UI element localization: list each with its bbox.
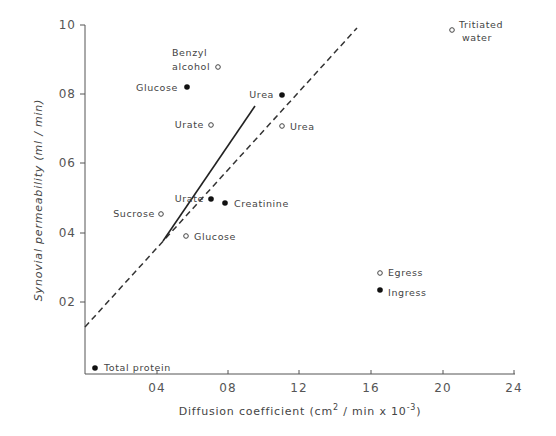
- label-tritiated-water-2: water: [462, 32, 492, 43]
- point-urea-ingress: [279, 92, 285, 98]
- label-sucrose: Sucrose: [113, 208, 155, 219]
- point-sucrose-egress: [159, 212, 164, 217]
- legend-ingress-label: Ingress: [388, 287, 427, 298]
- legend-egress-marker: [378, 271, 383, 276]
- label-total-protein: Total protein: [103, 362, 171, 373]
- y-tick-label: 10: [59, 18, 76, 32]
- point-urea-egress: [280, 124, 285, 129]
- x-tick-labels: 04 08 12 16 20 24: [148, 381, 522, 395]
- label-urea-egress: Urea: [290, 121, 315, 132]
- point-creatinine-ingress: [222, 200, 228, 206]
- y-tick-label: 04: [59, 226, 76, 240]
- x-tick-label: 04: [148, 381, 165, 395]
- point-labels: Tritiated water Benzyl alcohol Glucose U…: [103, 19, 503, 373]
- point-glucose-egress: [184, 234, 189, 239]
- x-axis-title: Diffusion coefficient (cm2 / min x 10-3): [179, 403, 422, 418]
- y-tick-label: 02: [59, 295, 76, 309]
- label-creatinine: Creatinine: [234, 198, 289, 209]
- legend-ingress-marker: [377, 287, 383, 293]
- label-urate-ingress: Urate: [175, 193, 204, 204]
- label-glucose-egress: Glucose: [194, 231, 236, 242]
- point-total-protein: [92, 365, 98, 371]
- y-tick-label: 06: [59, 156, 76, 170]
- point-glucose-ingress: [184, 84, 190, 90]
- y-ticks: [80, 25, 85, 302]
- point-urate-ingress: [208, 196, 214, 202]
- x-ticks: [157, 370, 514, 374]
- x-tick-label: 08: [219, 381, 236, 395]
- x-tick-label: 12: [290, 381, 307, 395]
- x-tick-label: 16: [362, 381, 379, 395]
- y-axis-title: Synovial permeability (ml / min): [32, 99, 45, 301]
- ingress-points: [92, 84, 383, 371]
- label-benzyl-alcohol-2: alcohol: [172, 61, 210, 72]
- label-benzyl-alcohol: Benzyl: [172, 47, 207, 58]
- point-urate-egress: [209, 123, 214, 128]
- y-tick-labels: 10 08 06 04 02: [59, 18, 76, 309]
- legend-egress-label: Egress: [388, 267, 423, 278]
- label-glucose-ingress: Glucose: [136, 82, 178, 93]
- label-urea-ingress: Urea: [249, 89, 274, 100]
- point-tritiated-water: [450, 28, 455, 33]
- y-tick-label: 08: [59, 87, 76, 101]
- regression-line-dashed: [85, 28, 357, 327]
- x-tick-label: 20: [434, 381, 451, 395]
- label-tritiated-water: Tritiated: [458, 19, 503, 30]
- point-benzyl-alcohol: [216, 65, 221, 70]
- x-tick-label: 24: [505, 381, 522, 395]
- scatter-chart: 10 08 06 04 02 04 08 12 16 20 24 Diffusi…: [0, 0, 556, 436]
- label-urate-egress: Urate: [175, 119, 204, 130]
